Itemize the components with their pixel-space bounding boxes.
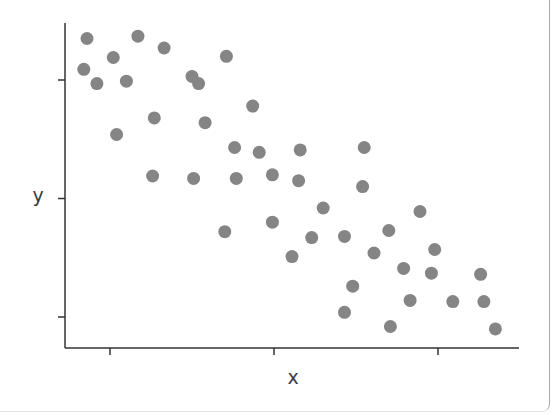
data-point [382,224,395,237]
data-point [266,216,279,229]
data-point [148,111,161,124]
data-point [317,202,330,215]
data-point [230,172,243,185]
data-point [77,63,90,76]
data-point [228,141,241,154]
data-point [356,180,369,193]
data-point [477,295,490,308]
data-point [446,295,459,308]
data-point [158,42,171,55]
y-axis-label: y [32,184,43,206]
data-points [77,30,502,336]
data-point [292,174,305,187]
data-point [474,268,487,281]
data-point [397,262,410,275]
data-point [346,280,359,293]
data-point [404,294,417,307]
data-point [90,77,103,90]
data-point [218,225,231,238]
data-point [384,320,397,333]
data-point [220,50,233,63]
x-axis-label: x [287,366,298,388]
scatter-plot: x y [0,0,560,415]
y-axis-ticks [58,80,65,317]
data-point [425,267,438,280]
data-point [338,306,351,319]
data-point [489,322,502,335]
data-point [246,100,259,113]
data-point [81,32,94,45]
data-point [338,230,351,243]
data-point [199,116,212,129]
data-point [187,172,200,185]
data-point [294,143,307,156]
data-point [253,146,266,159]
data-point [192,77,205,90]
data-point [286,250,299,263]
data-point [428,243,441,256]
x-axis-ticks [110,348,438,355]
data-point [120,75,133,88]
data-point [305,231,318,244]
data-point [131,30,144,43]
data-point [358,141,371,154]
data-point [110,128,123,141]
data-point [414,205,427,218]
data-point [266,168,279,181]
data-point [107,51,120,64]
data-point [368,247,381,260]
data-point [146,170,159,183]
